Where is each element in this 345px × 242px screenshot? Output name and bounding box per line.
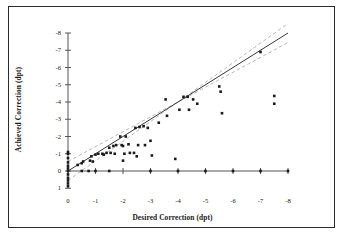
y-axis-title: Achieved Correction (dpt) xyxy=(14,30,23,190)
x-tick-label: -5 xyxy=(197,197,215,204)
y-tick-label: -2 xyxy=(47,133,61,140)
y-tick-label: -1 xyxy=(47,150,61,157)
x-tick-label: 0 xyxy=(59,197,77,204)
y-tick-label: 0 xyxy=(47,167,61,174)
y-tick-label: -7 xyxy=(47,46,61,53)
identity-line xyxy=(68,33,288,171)
x-axis-title: Desired Correction (dpt) xyxy=(0,213,345,222)
x-tick-label: -8 xyxy=(279,197,297,204)
y-tick-label: -3 xyxy=(47,115,61,122)
y-tick-label: 1 xyxy=(47,184,61,191)
x-tick-label: -1 xyxy=(87,197,105,204)
x-tick-label: -3 xyxy=(142,197,160,204)
y-tick-label: -6 xyxy=(47,64,61,71)
y-tick-label: -8 xyxy=(47,29,61,36)
y-tick-label: -5 xyxy=(47,81,61,88)
x-tick-label: -2 xyxy=(114,197,132,204)
data-point-markers xyxy=(67,51,290,188)
axis-lines-and-ticks xyxy=(65,33,288,188)
scatter-plot-figure: 0-1-2-3-4-5-6-7-810-1-2-3-4-5-6-7-8 Desi… xyxy=(0,0,345,242)
x-tick-label: -4 xyxy=(169,197,187,204)
y-tick-label: -4 xyxy=(47,98,61,105)
x-tick-label: -6 xyxy=(224,197,242,204)
x-tick-label: -7 xyxy=(252,197,270,204)
